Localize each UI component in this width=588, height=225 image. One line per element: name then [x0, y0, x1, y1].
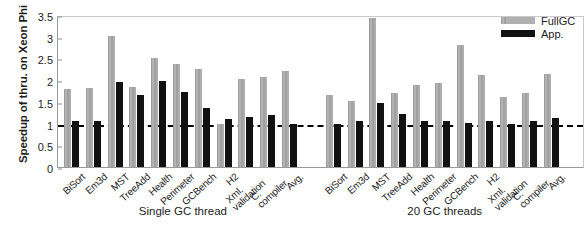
bar-app	[356, 121, 363, 167]
bar-fullgc	[282, 71, 289, 167]
bar-app	[246, 117, 253, 167]
bar-fullgc	[195, 69, 202, 167]
bar-app	[181, 92, 188, 167]
bar-fullgc	[217, 124, 224, 167]
bar-fullgc	[391, 93, 398, 167]
y-axis-tick-mark	[58, 17, 62, 18]
panel-caption: Single GC thread	[139, 205, 227, 217]
x-axis-category-label: Avg.	[284, 171, 306, 192]
bar-fullgc	[173, 64, 180, 167]
bar-app	[72, 121, 79, 167]
legend-swatch-fullgc	[501, 17, 535, 24]
bar-app	[552, 118, 559, 167]
y-axis-tick-label: 1	[47, 120, 53, 132]
x-axis-category-label: Em3d	[345, 171, 371, 196]
bar-app	[443, 121, 450, 167]
bar-app	[399, 114, 406, 167]
bar-app	[137, 95, 144, 167]
bar-app	[94, 121, 101, 167]
bar-fullgc	[64, 89, 71, 167]
legend-label-fullgc: FullGC	[541, 15, 575, 27]
bar-fullgc	[457, 45, 464, 167]
bar-fullgc	[369, 18, 376, 167]
bar-app	[334, 124, 341, 167]
y-axis-tick-mark	[58, 60, 62, 61]
y-axis-tick-label: 3	[47, 33, 53, 45]
legend-item-app: App.	[501, 27, 575, 40]
y-axis-title: Speedup of thru. on Xeon Phi	[17, 0, 29, 169]
bar-fullgc	[478, 75, 485, 168]
bar-app	[421, 121, 428, 167]
bar-fullgc	[522, 93, 529, 167]
bar-app	[290, 124, 297, 167]
bar-fullgc	[151, 58, 158, 167]
bar-fullgc	[544, 74, 551, 167]
bar-app	[465, 123, 472, 167]
bar-app	[530, 121, 537, 167]
y-axis-tick-mark	[58, 82, 62, 83]
bar-app	[377, 103, 384, 167]
bar-app	[159, 81, 166, 167]
legend-label-app: App.	[541, 28, 564, 40]
y-axis-tick-mark	[58, 103, 62, 104]
bar-app	[268, 115, 275, 167]
y-axis-tick-mark	[58, 38, 62, 39]
legend-item-fullgc: FullGC	[501, 14, 575, 27]
bar-app	[486, 121, 493, 167]
x-axis-category-label: Em3d	[83, 171, 109, 196]
bar-app	[116, 82, 123, 167]
y-axis-tick-label: 0	[47, 163, 53, 175]
bar-fullgc	[108, 36, 115, 167]
bar-app	[203, 108, 210, 167]
bar-fullgc	[413, 85, 420, 167]
y-axis-tick-label: 3.5	[38, 11, 53, 23]
bar-app	[225, 119, 232, 167]
chart-figure: Speedup of thru. on Xeon Phi 00.511.522.…	[0, 0, 588, 225]
bar-fullgc	[326, 95, 333, 167]
bar-fullgc	[500, 97, 507, 167]
x-axis-category-label: Avg.	[546, 171, 568, 192]
bar-fullgc	[260, 77, 267, 167]
bar-fullgc	[238, 79, 245, 167]
bar-app	[508, 124, 515, 167]
chart-legend: FullGC App.	[501, 14, 575, 40]
x-axis-category-label: BiSort	[322, 171, 349, 197]
y-axis-tick-mark	[58, 169, 62, 170]
bar-fullgc	[435, 83, 442, 167]
x-axis-category-label: BiSort	[61, 171, 88, 197]
y-axis-tick-label: 2	[47, 76, 53, 88]
bar-fullgc	[348, 101, 355, 167]
y-axis-tick-label: 0.5	[38, 141, 53, 153]
bar-fullgc	[86, 88, 93, 167]
bar-fullgc	[129, 87, 136, 167]
panel-caption: 20 GC threads	[407, 205, 482, 217]
y-axis-tick-label: 2.5	[38, 54, 53, 66]
y-axis-tick-mark	[58, 147, 62, 148]
y-axis-tick-label: 1.5	[38, 98, 53, 110]
legend-swatch-app	[501, 30, 535, 37]
